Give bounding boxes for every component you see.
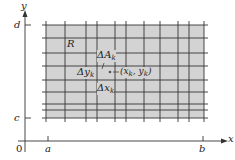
delta-x-text: Δx (97, 82, 110, 93)
delta-x-label: Δxk (97, 83, 114, 95)
point-label-open: (x (120, 66, 129, 76)
x-axis-label: x (228, 134, 234, 144)
delta-a-text: ΔA (97, 49, 111, 60)
delta-a-label: ΔAk (97, 50, 116, 62)
delta-y-text: Δy (77, 66, 90, 77)
y-axis-arrow-icon (23, 10, 28, 17)
diagram-canvas (0, 0, 235, 160)
tick-label-d: d (14, 20, 20, 30)
point-label-mid: , y (133, 66, 144, 76)
sample-point (109, 71, 112, 74)
delta-y-sub: k (90, 71, 94, 79)
tick-label-c: c (14, 113, 20, 123)
x-axis-arrow-icon (221, 139, 228, 144)
y-axis-label: y (21, 1, 27, 11)
delta-a-sub: k (111, 54, 115, 62)
delta-y-label: Δyk (77, 67, 94, 79)
sample-point-label: (xk, yk) (120, 67, 151, 78)
origin-label: 0 (16, 144, 22, 154)
point-label-close: ) (148, 66, 152, 76)
region-label: R (67, 39, 75, 49)
tick-label-a: a (45, 144, 51, 154)
tick-label-b: b (199, 144, 205, 154)
delta-x-sub: k (110, 87, 114, 95)
